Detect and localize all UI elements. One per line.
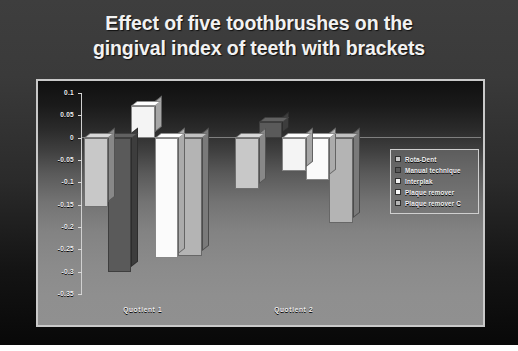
y-axis-tick-mark bbox=[78, 227, 82, 228]
y-axis-tick-label: -0.05 bbox=[42, 156, 74, 163]
legend-item-label: Interplak bbox=[405, 178, 433, 185]
y-axis-tick-label: -0.25 bbox=[42, 245, 74, 252]
y-axis-tick-label: -0.3 bbox=[42, 268, 74, 275]
bar-side-face bbox=[202, 127, 209, 251]
legend-swatch-icon bbox=[395, 189, 401, 195]
legend-item: Manual technique bbox=[395, 165, 475, 175]
bar-front-face bbox=[235, 138, 259, 189]
chart-frame: 0.10.050-0.05-0.1-0.15-0.2-0.25-0.3-0.35… bbox=[36, 79, 485, 327]
y-axis-tick-mark bbox=[78, 294, 82, 295]
legend-swatch-icon bbox=[395, 167, 401, 173]
legend-item-label: Plaque remover C bbox=[405, 200, 461, 207]
y-axis-tick-mark bbox=[78, 138, 82, 139]
legend-item: Plaque remover C bbox=[395, 198, 475, 208]
y-axis-line bbox=[81, 93, 82, 294]
legend-swatch-icon bbox=[395, 178, 401, 184]
y-axis-tick-mark bbox=[78, 272, 82, 273]
legend-item: Rota-Dent bbox=[395, 154, 475, 164]
bar bbox=[155, 138, 179, 259]
y-axis-tick-mark bbox=[78, 205, 82, 206]
y-axis-tick-label: 0.05 bbox=[42, 111, 74, 118]
chart-legend: Rota-DentManual techniqueInterplakPlaque… bbox=[390, 149, 479, 214]
category-label: Quotient 1 bbox=[74, 306, 212, 313]
bar-front-face bbox=[84, 138, 108, 207]
legend-swatch-icon bbox=[395, 156, 401, 162]
y-axis-tick-mark bbox=[78, 182, 82, 183]
y-axis-tick-label: 0.1 bbox=[42, 89, 74, 96]
bar bbox=[282, 138, 306, 172]
bar-front-face bbox=[155, 138, 179, 259]
chart-title-line-1: Effect of five toothbrushes on the bbox=[0, 11, 518, 36]
legend-item: Interplak bbox=[395, 176, 475, 186]
y-axis-tick-label: -0.35 bbox=[42, 290, 74, 297]
legend-item-label: Manual technique bbox=[405, 167, 461, 174]
bar bbox=[235, 138, 259, 189]
y-axis-tick-mark bbox=[78, 249, 82, 250]
bar-front-face bbox=[282, 138, 306, 172]
y-axis-tick-label: 0 bbox=[42, 134, 74, 141]
legend-item: Plaque remover bbox=[395, 187, 475, 197]
bar-side-face bbox=[282, 112, 289, 133]
y-axis-tick-label: -0.2 bbox=[42, 223, 74, 230]
legend-item-label: Plaque remover bbox=[405, 189, 454, 196]
category-label: Quotient 2 bbox=[225, 306, 363, 313]
legend-swatch-icon bbox=[395, 200, 401, 206]
presentation-slide: Effect of five toothbrushes on the gingi… bbox=[0, 0, 518, 345]
bar-side-face bbox=[178, 127, 185, 253]
y-axis-tick-label: -0.1 bbox=[42, 178, 74, 185]
chart-title-line-2: gingival index of teeth with brackets bbox=[0, 36, 518, 61]
legend-item-label: Rota-Dent bbox=[405, 156, 436, 163]
bar-side-face bbox=[131, 127, 138, 266]
bar-side-face bbox=[353, 127, 360, 217]
y-axis-tick-mark bbox=[78, 115, 82, 116]
y-axis-tick-mark bbox=[78, 93, 82, 94]
bar bbox=[84, 138, 108, 207]
chart-title: Effect of five toothbrushes on the gingi… bbox=[0, 11, 518, 61]
y-axis-tick-mark bbox=[78, 160, 82, 161]
y-axis-tick-label: -0.15 bbox=[42, 201, 74, 208]
bar-side-face bbox=[108, 127, 115, 202]
